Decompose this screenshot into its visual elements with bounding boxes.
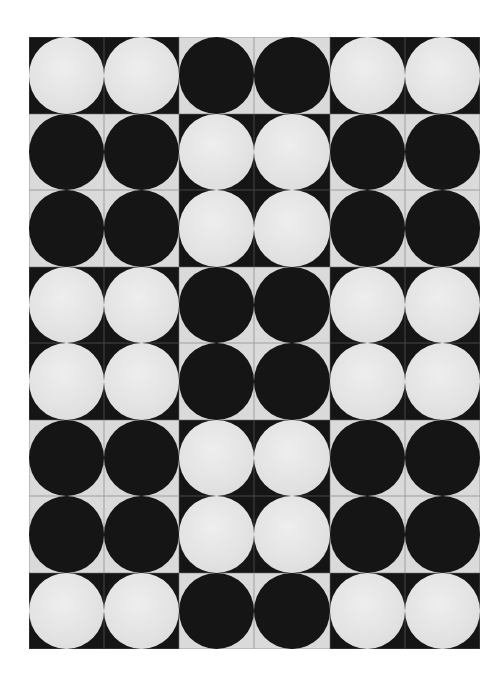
- black-circle-shape: [330, 420, 405, 497]
- black-circle-shape: [405, 114, 480, 191]
- tile-white-disc: [179, 114, 254, 191]
- tile-white-disc: [254, 190, 329, 267]
- tile-white-disc: [104, 573, 179, 650]
- white-circle-shape: [405, 37, 480, 114]
- white-circle-shape: [179, 190, 254, 267]
- black-circle-shape: [104, 190, 179, 267]
- tile-white-disc: [179, 190, 254, 267]
- tile-black-disc: [104, 420, 179, 497]
- tile-black-disc: [179, 267, 254, 344]
- tile-white-disc: [29, 267, 104, 344]
- tile-white-disc: [104, 343, 179, 420]
- tile-black-disc: [104, 496, 179, 573]
- tile-white-disc: [405, 343, 480, 420]
- black-circle-shape: [179, 267, 254, 344]
- tile-black-disc: [330, 114, 405, 191]
- tile-black-disc: [179, 343, 254, 420]
- tile-black-disc: [330, 496, 405, 573]
- tile-black-disc: [330, 420, 405, 497]
- tile-white-disc: [254, 496, 329, 573]
- white-circle-shape: [330, 37, 405, 114]
- tile-black-disc: [254, 573, 329, 650]
- black-circle-shape: [29, 496, 104, 573]
- tile-black-disc: [29, 496, 104, 573]
- tile-white-disc: [254, 420, 329, 497]
- white-circle-shape: [405, 573, 480, 650]
- tile-black-disc: [405, 190, 480, 267]
- tile-white-disc: [405, 573, 480, 650]
- tile-black-disc: [330, 190, 405, 267]
- black-circle-shape: [405, 190, 480, 267]
- tile-black-disc: [29, 420, 104, 497]
- white-circle-shape: [330, 267, 405, 344]
- tile-white-disc: [179, 420, 254, 497]
- black-circle-shape: [29, 190, 104, 267]
- black-circle-shape: [179, 573, 254, 650]
- tile-black-disc: [254, 267, 329, 344]
- tile-black-disc: [254, 37, 329, 114]
- black-circle-shape: [254, 37, 329, 114]
- tile-white-disc: [179, 496, 254, 573]
- black-circle-shape: [330, 496, 405, 573]
- tile-white-disc: [330, 267, 405, 344]
- white-circle-shape: [104, 37, 179, 114]
- black-circle-shape: [104, 496, 179, 573]
- tile-black-disc: [405, 420, 480, 497]
- white-circle-shape: [29, 37, 104, 114]
- tile-white-disc: [29, 37, 104, 114]
- tile-black-disc: [405, 114, 480, 191]
- tiled-circle-artwork: [29, 37, 480, 649]
- white-circle-shape: [330, 573, 405, 650]
- white-circle-shape: [29, 573, 104, 650]
- white-circle-shape: [405, 267, 480, 344]
- black-circle-shape: [405, 420, 480, 497]
- tile-black-disc: [104, 114, 179, 191]
- white-circle-shape: [179, 420, 254, 497]
- tile-white-disc: [330, 573, 405, 650]
- tile-white-disc: [405, 267, 480, 344]
- tile-black-disc: [179, 37, 254, 114]
- white-circle-shape: [330, 343, 405, 420]
- black-circle-shape: [179, 343, 254, 420]
- black-circle-shape: [104, 114, 179, 191]
- white-circle-shape: [254, 190, 329, 267]
- black-circle-shape: [254, 267, 329, 344]
- black-circle-shape: [330, 190, 405, 267]
- white-circle-shape: [179, 114, 254, 191]
- tile-white-disc: [29, 573, 104, 650]
- white-circle-shape: [254, 114, 329, 191]
- white-circle-shape: [104, 343, 179, 420]
- tile-white-disc: [330, 343, 405, 420]
- black-circle-shape: [254, 343, 329, 420]
- tile-white-disc: [104, 267, 179, 344]
- white-circle-shape: [104, 267, 179, 344]
- tile-black-disc: [405, 496, 480, 573]
- black-circle-shape: [179, 37, 254, 114]
- black-circle-shape: [29, 114, 104, 191]
- white-circle-shape: [29, 343, 104, 420]
- black-circle-shape: [254, 573, 329, 650]
- white-circle-shape: [29, 267, 104, 344]
- tile-white-disc: [405, 37, 480, 114]
- tile-black-disc: [179, 573, 254, 650]
- tile-white-disc: [104, 37, 179, 114]
- white-circle-shape: [254, 420, 329, 497]
- tile-white-disc: [254, 114, 329, 191]
- tile-black-disc: [254, 343, 329, 420]
- tile-black-disc: [104, 190, 179, 267]
- black-circle-shape: [405, 496, 480, 573]
- white-circle-shape: [254, 496, 329, 573]
- tile-black-disc: [29, 114, 104, 191]
- white-circle-shape: [405, 343, 480, 420]
- black-circle-shape: [104, 420, 179, 497]
- black-circle-shape: [29, 420, 104, 497]
- white-circle-shape: [104, 573, 179, 650]
- white-circle-shape: [179, 496, 254, 573]
- tile-black-disc: [29, 190, 104, 267]
- tile-white-disc: [29, 343, 104, 420]
- black-circle-shape: [330, 114, 405, 191]
- tile-white-disc: [330, 37, 405, 114]
